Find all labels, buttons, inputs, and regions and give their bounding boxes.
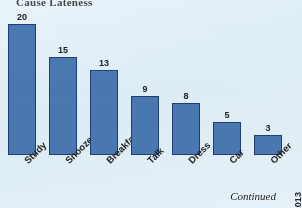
bar-chart-figure: Cause Lateness 20 Study 15 Snooze 13 Bre… [0,0,302,208]
bar-group: 5 Car [213,122,241,155]
bar-value-label: 8 [172,91,200,101]
bar-group: 8 Dress [172,103,200,155]
bar-rect[interactable] [131,96,159,155]
bar-group: 3 Other [254,135,282,155]
bar-group: 20 Study [8,24,36,155]
bar-group: 15 Snooze [49,57,77,155]
bar-rect[interactable] [8,24,36,155]
bar-value-label: 5 [213,110,241,120]
continued-note: Continued [230,190,276,202]
plot-area: 20 Study 15 Snooze 13 Breakfast 9 Talk 8… [0,0,264,208]
bar-group: 9 Talk [131,96,159,155]
bar-group: 13 Breakfast [90,70,118,155]
bar-value-label: 3 [254,123,282,133]
bar-rect[interactable] [90,70,118,155]
bar-value-label: 9 [131,84,159,94]
bar-value-label: 15 [49,45,77,55]
copyright-notice: Copyright © Cengage Learning 2013 [293,192,302,208]
bar-rect[interactable] [49,57,77,155]
bar-value-label: 20 [8,12,36,22]
bar-value-label: 13 [90,58,118,68]
